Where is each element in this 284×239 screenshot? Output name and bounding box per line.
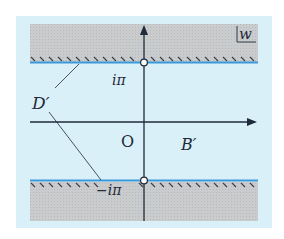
label-i-pi: iπ bbox=[112, 72, 126, 88]
label-boundary-d-prime: D′ bbox=[31, 93, 50, 113]
label-origin: O bbox=[121, 132, 134, 151]
label-interior-b-prime: B′ bbox=[180, 135, 197, 154]
point-i-pi bbox=[141, 59, 148, 66]
strip-diagram: w iπ D′ O B′ −iπ bbox=[0, 0, 284, 239]
plane-label: w bbox=[239, 25, 252, 43]
label-minus-i-pi: −iπ bbox=[96, 182, 122, 198]
point-minus-i-pi bbox=[141, 177, 148, 184]
